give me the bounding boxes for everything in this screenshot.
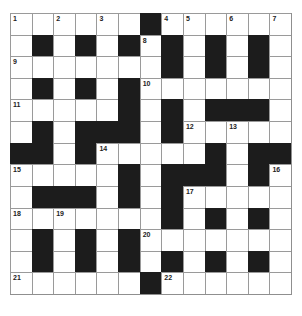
answer-cell[interactable] [10,251,32,273]
answer-cell[interactable] [53,99,75,121]
answer-cell[interactable]: 9 [10,56,32,78]
answer-cell[interactable] [75,56,97,78]
answer-cell[interactable] [140,251,162,273]
answer-cell[interactable] [248,78,270,100]
answer-cell[interactable]: 12 [183,121,205,143]
answer-cell[interactable] [226,251,248,273]
answer-cell[interactable] [75,272,97,294]
answer-cell[interactable] [269,99,291,121]
answer-cell[interactable] [248,13,270,35]
answer-cell[interactable] [96,251,118,273]
answer-cell[interactable] [183,272,205,294]
answer-cell[interactable] [32,272,54,294]
answer-cell[interactable] [248,186,270,208]
answer-cell[interactable]: 3 [96,13,118,35]
answer-cell[interactable]: 8 [140,35,162,57]
answer-cell[interactable] [96,56,118,78]
answer-cell[interactable]: 6 [226,13,248,35]
answer-cell[interactable] [269,121,291,143]
answer-cell[interactable] [96,208,118,230]
answer-cell[interactable] [183,78,205,100]
answer-cell[interactable] [269,56,291,78]
answer-cell[interactable]: 19 [53,208,75,230]
answer-cell[interactable] [161,229,183,251]
answer-cell[interactable] [96,99,118,121]
answer-cell[interactable]: 21 [10,272,32,294]
answer-cell[interactable] [32,208,54,230]
answer-cell[interactable] [226,208,248,230]
answer-cell[interactable] [96,186,118,208]
answer-cell[interactable] [53,164,75,186]
answer-cell[interactable] [226,143,248,165]
answer-cell[interactable]: 11 [10,99,32,121]
answer-cell[interactable] [118,208,140,230]
answer-cell[interactable] [226,164,248,186]
answer-cell[interactable] [53,143,75,165]
answer-cell[interactable] [140,208,162,230]
answer-cell[interactable] [118,143,140,165]
answer-cell[interactable] [10,35,32,57]
answer-cell[interactable] [205,13,227,35]
answer-cell[interactable]: 16 [269,164,291,186]
answer-cell[interactable] [183,229,205,251]
answer-cell[interactable] [32,56,54,78]
answer-cell[interactable] [161,143,183,165]
answer-cell[interactable] [205,229,227,251]
answer-cell[interactable] [140,121,162,143]
answer-cell[interactable] [161,78,183,100]
answer-cell[interactable] [248,229,270,251]
answer-cell[interactable] [226,272,248,294]
answer-cell[interactable]: 7 [269,13,291,35]
answer-cell[interactable] [269,229,291,251]
answer-cell[interactable] [140,164,162,186]
answer-cell[interactable] [140,56,162,78]
answer-cell[interactable] [53,56,75,78]
answer-cell[interactable] [118,13,140,35]
answer-cell[interactable]: 1 [10,13,32,35]
answer-cell[interactable] [32,99,54,121]
answer-cell[interactable] [140,99,162,121]
answer-cell[interactable] [269,186,291,208]
answer-cell[interactable] [75,164,97,186]
answer-cell[interactable] [205,78,227,100]
answer-cell[interactable] [183,56,205,78]
answer-cell[interactable] [53,251,75,273]
answer-cell[interactable] [96,164,118,186]
answer-cell[interactable] [75,208,97,230]
answer-cell[interactable] [205,121,227,143]
answer-cell[interactable] [53,121,75,143]
answer-cell[interactable]: 22 [161,272,183,294]
answer-cell[interactable] [140,143,162,165]
answer-cell[interactable] [248,121,270,143]
answer-cell[interactable] [53,229,75,251]
answer-cell[interactable] [118,56,140,78]
answer-cell[interactable] [96,229,118,251]
answer-cell[interactable]: 10 [140,78,162,100]
answer-cell[interactable] [269,35,291,57]
answer-cell[interactable]: 13 [226,121,248,143]
answer-cell[interactable] [183,251,205,273]
answer-cell[interactable] [226,186,248,208]
answer-cell[interactable] [183,35,205,57]
answer-cell[interactable] [96,35,118,57]
answer-cell[interactable] [96,272,118,294]
answer-cell[interactable] [183,208,205,230]
answer-cell[interactable]: 5 [183,13,205,35]
answer-cell[interactable] [269,251,291,273]
answer-cell[interactable] [140,186,162,208]
answer-cell[interactable] [53,272,75,294]
answer-cell[interactable] [10,229,32,251]
answer-cell[interactable]: 2 [53,13,75,35]
answer-cell[interactable]: 4 [161,13,183,35]
answer-cell[interactable] [75,99,97,121]
answer-cell[interactable] [226,78,248,100]
answer-cell[interactable] [10,121,32,143]
answer-cell[interactable] [269,78,291,100]
answer-cell[interactable] [96,78,118,100]
answer-cell[interactable]: 14 [96,143,118,165]
answer-cell[interactable] [75,13,97,35]
answer-cell[interactable]: 18 [10,208,32,230]
answer-cell[interactable] [205,272,227,294]
answer-cell[interactable] [53,35,75,57]
answer-cell[interactable] [10,78,32,100]
